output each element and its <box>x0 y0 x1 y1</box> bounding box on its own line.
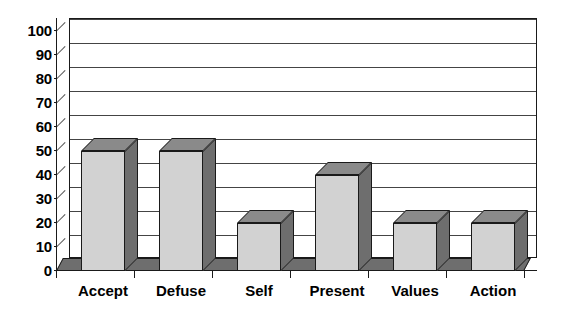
bar-present[interactable] <box>315 175 359 271</box>
bar-front-face <box>81 151 125 271</box>
bar-side-face <box>125 138 138 271</box>
x-axis-category-label: Self <box>217 283 301 298</box>
y-axis-tick-label: 60 <box>0 119 52 134</box>
bar-front-face <box>471 223 515 271</box>
gridline <box>70 163 536 164</box>
bar-front-face <box>315 175 359 271</box>
gridline <box>70 235 536 236</box>
x-axis-category-label: Accept <box>61 283 145 298</box>
y-axis-line <box>56 18 57 270</box>
bar-side-face <box>203 138 216 271</box>
x-axis-tick-mark <box>368 271 369 278</box>
gridline <box>70 67 536 68</box>
gridline <box>70 91 536 92</box>
x-axis-tick-mark <box>290 271 291 278</box>
x-axis-category-label: Defuse <box>139 283 223 298</box>
y-axis-tick-label: 70 <box>0 95 52 110</box>
gridline <box>70 19 536 20</box>
bar-front-face <box>237 223 281 271</box>
bar-chart: 0102030405060708090100 AcceptDefuseSelfP… <box>0 0 563 322</box>
y-axis-tick-label: 30 <box>0 191 52 206</box>
y-axis-tick-label: 0 <box>0 263 52 278</box>
y-axis-tick-label: 100 <box>0 23 52 38</box>
x-axis-category-label: Action <box>451 283 535 298</box>
y-axis-tick-label: 10 <box>0 239 52 254</box>
bar-defuse[interactable] <box>159 151 203 271</box>
y-axis-tick-label: 20 <box>0 215 52 230</box>
x-axis-tick-mark <box>56 271 57 278</box>
y-axis-tick-label: 90 <box>0 47 52 62</box>
y-axis-tick-label: 80 <box>0 71 52 86</box>
bar-accept[interactable] <box>81 151 125 271</box>
x-axis-tick-mark <box>134 271 135 278</box>
gridline <box>70 115 536 116</box>
x-axis-tick-mark <box>524 271 525 278</box>
bar-front-face <box>159 151 203 271</box>
x-axis-line <box>56 270 537 271</box>
gridline <box>70 211 536 212</box>
gridline <box>70 187 536 188</box>
plot-area <box>69 18 537 258</box>
bar-action[interactable] <box>471 223 515 271</box>
gridline <box>70 43 536 44</box>
x-axis-category-label: Present <box>295 283 379 298</box>
x-axis-category-label: Values <box>373 283 457 298</box>
bar-front-face <box>393 223 437 271</box>
x-axis-tick-mark <box>446 271 447 278</box>
gridline <box>70 139 536 140</box>
y-axis-tick-label: 50 <box>0 143 52 158</box>
bar-self[interactable] <box>237 223 281 271</box>
y-axis-labels: 0102030405060708090100 <box>0 0 52 322</box>
bar-values[interactable] <box>393 223 437 271</box>
bar-side-face <box>359 162 372 271</box>
y-axis-tick-label: 40 <box>0 167 52 182</box>
x-axis-tick-mark <box>212 271 213 278</box>
